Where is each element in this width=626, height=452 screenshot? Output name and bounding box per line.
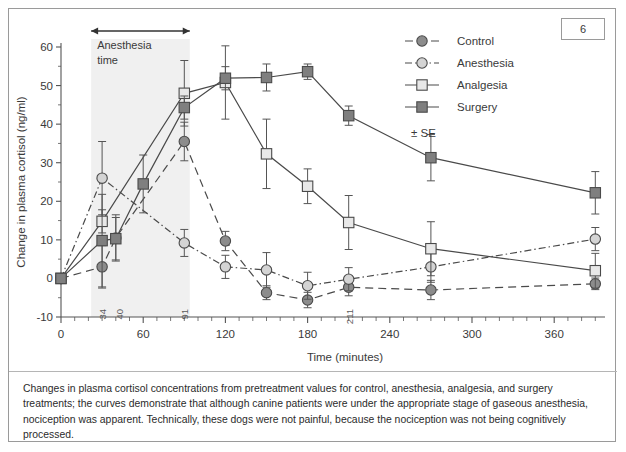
legend-marker-anesthesia — [417, 58, 427, 68]
data-point-marker — [261, 288, 271, 298]
arrow-head-right — [183, 27, 190, 34]
legend-item-control: Control — [405, 35, 494, 47]
x-tick-label: 180 — [298, 328, 317, 340]
x-tick-label: 240 — [380, 328, 399, 340]
data-point-marker — [426, 244, 436, 254]
arrow-head-left — [91, 27, 98, 34]
data-point-marker — [344, 217, 354, 227]
x-tick-label: 300 — [462, 328, 481, 340]
figure-frame: 6 -100102030405060060120180240300360Time… — [8, 8, 616, 442]
legend-label-anesthesia: Anesthesia — [457, 57, 515, 69]
data-point-marker — [590, 266, 600, 276]
legend-marker-control — [417, 36, 427, 46]
legend-se-note: ± SE — [411, 127, 436, 139]
data-point-marker — [220, 236, 230, 246]
x-tick-label: 120 — [216, 328, 235, 340]
x-tick-label: 60 — [137, 328, 150, 340]
anesthesia-span-label-line2: time — [97, 54, 118, 66]
data-point-marker — [590, 234, 600, 244]
page-number-text: 6 — [580, 23, 586, 35]
data-point-marker — [220, 262, 230, 272]
y-tick-label: 20 — [40, 195, 53, 207]
y-tick-label: 30 — [40, 157, 53, 169]
cortisol-line-chart: -100102030405060060120180240300360Time (… — [9, 9, 617, 369]
chart-plot-area: -100102030405060060120180240300360Time (… — [9, 9, 617, 369]
data-point-marker — [179, 136, 189, 146]
data-point-marker — [220, 73, 230, 83]
time-point-label: 211 — [344, 309, 355, 324]
legend-marker-analgesia — [417, 80, 427, 90]
x-tick-label: 0 — [58, 328, 64, 340]
figure-caption-block: Changes in plasma cortisol concentration… — [9, 371, 617, 442]
data-point-marker — [344, 274, 354, 284]
data-point-marker — [302, 66, 312, 76]
data-point-marker — [97, 173, 107, 183]
y-tick-label: 0 — [47, 272, 53, 284]
legend-item-surgery: Surgery — [405, 101, 498, 113]
x-tick-label: 360 — [545, 328, 564, 340]
data-point-marker — [344, 110, 354, 120]
data-point-marker — [302, 281, 312, 291]
legend-label-analgesia: Analgesia — [457, 79, 508, 91]
legend-label-control: Control — [457, 35, 494, 47]
chart-legend: ControlAnesthesiaAnalgesiaSurgery± SE — [405, 35, 515, 139]
anesthesia-span-label-line1: Anesthesia — [97, 39, 152, 51]
page-number-badge: 6 — [561, 18, 605, 40]
data-point-marker — [179, 238, 189, 248]
x-axis-title: Time (minutes) — [307, 351, 383, 363]
data-point-marker — [97, 235, 107, 245]
data-point-marker — [111, 234, 121, 244]
data-point-marker — [261, 149, 271, 159]
data-point-marker — [426, 285, 436, 295]
data-point-marker — [56, 273, 66, 283]
legend-item-anesthesia: Anesthesia — [405, 57, 515, 69]
legend-label-surgery: Surgery — [457, 101, 498, 113]
time-point-label: 34 — [97, 309, 108, 320]
data-point-marker — [302, 181, 312, 191]
y-tick-label: 40 — [40, 118, 53, 130]
legend-item-analgesia: Analgesia — [405, 79, 508, 91]
y-tick-label: 60 — [40, 41, 53, 53]
legend-marker-surgery — [417, 102, 427, 112]
figure-caption-text: Changes in plasma cortisol concentration… — [23, 381, 603, 442]
time-point-label: 91 — [179, 309, 190, 320]
data-point-marker — [261, 265, 271, 275]
y-tick-label: -10 — [36, 311, 53, 323]
y-tick-label: 50 — [40, 80, 53, 92]
data-point-marker — [426, 153, 436, 163]
data-point-marker — [590, 188, 600, 198]
data-point-marker — [179, 102, 189, 112]
y-axis-title: Change in plasma cortisol (ng/ml) — [15, 96, 27, 267]
y-tick-label: 10 — [40, 234, 53, 246]
data-point-marker — [261, 72, 271, 82]
time-point-label: 40 — [114, 309, 125, 320]
data-point-marker — [138, 179, 148, 189]
